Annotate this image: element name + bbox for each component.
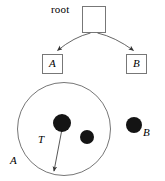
region-a-label: A bbox=[10, 155, 17, 166]
edge-root-to-b bbox=[98, 33, 134, 51]
diagram-canvas bbox=[0, 0, 165, 181]
point-b-label: B bbox=[143, 127, 150, 138]
tree-and-region-diagram: root A B T A B bbox=[0, 0, 165, 181]
point-b-outside bbox=[126, 117, 142, 133]
root-label: root bbox=[51, 4, 70, 15]
root-node-box bbox=[83, 7, 106, 33]
point-small-inside-a bbox=[80, 130, 94, 144]
edge-root-to-a bbox=[58, 33, 91, 51]
tree-node-label-a: A bbox=[49, 58, 56, 69]
vector-t-label: T bbox=[38, 134, 44, 145]
tree-node-label-b: B bbox=[133, 58, 140, 69]
vector-t-arrow bbox=[54, 129, 62, 171]
point-large-inside-a bbox=[53, 114, 71, 132]
